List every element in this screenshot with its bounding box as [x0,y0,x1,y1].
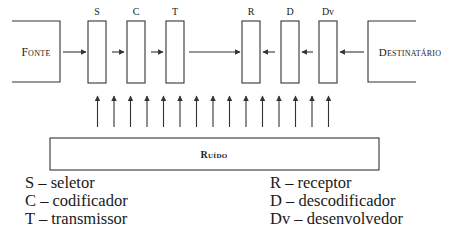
legend-receiver: R – receptor D – descodificador Dv – des… [270,174,403,228]
block-S-label: S [94,6,100,17]
block-T: T [166,6,184,83]
source-label: Fonte [21,46,50,58]
destination-box: Destinatário [368,21,441,82]
block-C-label: C [133,6,140,17]
block-D: D [281,6,299,83]
legend-item-dv: Dv – desenvolvedor [270,210,403,228]
legend-item-d: D – descodificador [270,192,403,210]
noise-box: Ruído [50,138,379,170]
block-Dv: Dv [319,6,337,83]
noise-label: Ruído [200,149,227,160]
block-R-label: R [248,6,255,17]
block-T-label: T [172,6,178,17]
legend-sender: S – seletor C – codificador T – transmis… [25,174,128,228]
block-R: R [242,6,260,83]
legend-item-t: T – transmissor [25,210,128,228]
source-box: Fonte [12,21,60,82]
legend-item-r: R – receptor [270,174,403,192]
block-C: C [127,6,145,83]
block-Dv-label: Dv [322,6,334,17]
destination-label: Destinatário [379,46,441,58]
legend-item-c: C – codificador [25,192,128,210]
noise-arrows [98,96,329,127]
legend-item-s: S – seletor [25,174,128,192]
block-D-label: D [286,6,293,17]
block-S: S [88,6,106,83]
